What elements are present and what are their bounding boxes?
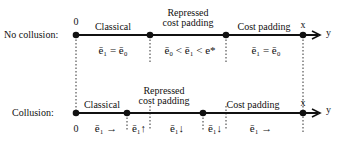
region-costpadding-top: Cost padding	[237, 22, 290, 32]
region-classical-top: Classical	[95, 22, 131, 32]
subregion-label-2: ē₁↑	[132, 123, 146, 133]
condition-classical: ē₁ = ē₀	[98, 45, 127, 55]
no-collusion-label: No collusion:	[4, 30, 58, 40]
subregion-label-5: ē₁ →	[250, 123, 272, 133]
x-label-top: x	[301, 20, 306, 30]
region-repressed-top-line2: cost padding	[163, 18, 214, 28]
x-label-bottom: x	[301, 98, 306, 108]
subregion-label-3: ē₁↓	[170, 123, 184, 133]
subregion-label-1: ē₁ →	[95, 123, 117, 133]
region-classical-bottom: Classical	[84, 100, 120, 110]
condition-repressed: ē₀ < ē₁ < e*	[164, 45, 215, 55]
collusion-label: Collusion:	[12, 108, 54, 118]
origin-label-bottom: 0	[74, 124, 79, 134]
axis-no-collusion	[73, 31, 320, 39]
region-repressed-bottom-line2: cost padding	[139, 96, 190, 106]
axis-collusion	[73, 109, 320, 117]
condition-costpadding: ē₁ = ē₀	[251, 45, 280, 55]
region-costpadding-bottom: Cost padding	[226, 100, 279, 110]
y-axis-label-bottom: y	[326, 105, 331, 115]
subregion-label-4: ē₁↓	[208, 123, 222, 133]
y-axis-label-top: y	[326, 28, 331, 38]
origin-label-top: 0	[74, 17, 79, 27]
